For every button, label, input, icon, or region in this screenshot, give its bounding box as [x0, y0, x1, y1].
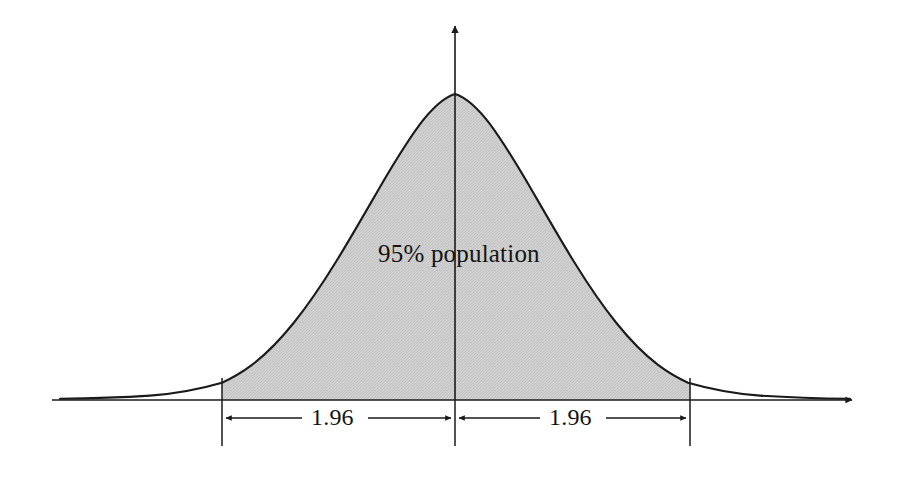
ci-right-value-label: 1.96 [549, 405, 592, 429]
normal-distribution-figure: 95% population 1.96 1.96 [0, 0, 900, 483]
population-area-label: 95% population [378, 241, 540, 266]
ci-left-value-label: 1.96 [311, 405, 354, 429]
